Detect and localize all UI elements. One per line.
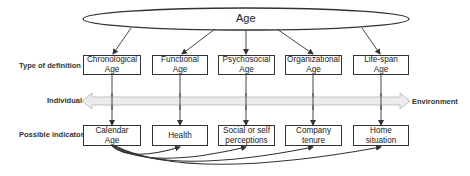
- edge-age-chronological: [113, 28, 131, 54]
- curve-calendar-social: [113, 146, 246, 158]
- diagram-connectors: [0, 0, 470, 176]
- definition-box-lifespan: Life-span Age: [353, 55, 409, 75]
- edge-age-functional: [182, 29, 215, 54]
- indicator-box-company-tenure: Company tenure: [285, 125, 342, 146]
- edge-age-organizational: [277, 29, 313, 54]
- definition-box-organizational: Organizational Age: [285, 55, 342, 75]
- continuum-left-label: Individual: [47, 96, 82, 105]
- edge-age-lifespan: [362, 28, 380, 54]
- indicator-box-social-perceptions: Social or self perceptions: [218, 125, 275, 146]
- indicator-box-calendar-age: Calendar Age: [83, 125, 141, 146]
- indicator-box-home-situation: Home situation: [353, 125, 409, 146]
- row-label-definition: Type of definition: [19, 61, 81, 70]
- definition-box-functional: Functional Age: [152, 55, 208, 75]
- curve-calendar-home: [115, 146, 381, 164]
- age-root-label: Age: [236, 12, 256, 24]
- definition-box-psychosocial: Psychosocial Age: [218, 55, 275, 75]
- indicator-box-health: Health: [152, 125, 208, 146]
- definition-box-chronological: Chronological Age: [83, 55, 141, 75]
- continuum-right-label: Environment: [412, 97, 458, 106]
- row-label-indicators: Possible indicators: [19, 130, 88, 139]
